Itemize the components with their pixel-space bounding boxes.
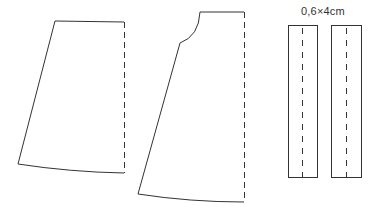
skirt-panel-plain — [18, 21, 125, 173]
strip-dimension-label: 0,6×4cm — [301, 5, 345, 17]
pattern-diagram — [0, 0, 386, 212]
strip-1 — [289, 26, 318, 178]
strip-2 — [332, 26, 362, 178]
skirt-panel-curved — [138, 12, 245, 202]
